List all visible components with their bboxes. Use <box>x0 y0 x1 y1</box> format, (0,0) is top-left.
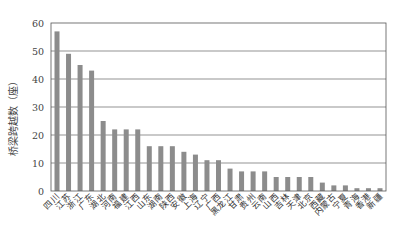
bars <box>55 31 383 191</box>
bar <box>216 160 221 191</box>
bar <box>78 65 83 191</box>
bar <box>193 155 198 191</box>
y-tick-label: 50 <box>32 46 44 57</box>
y-tick-label: 30 <box>32 102 44 113</box>
bar <box>170 146 175 191</box>
y-tick-label: 20 <box>32 130 44 141</box>
bar <box>251 171 256 191</box>
bar <box>378 188 383 191</box>
bar <box>181 152 186 191</box>
bar <box>112 129 117 191</box>
bar <box>239 171 244 191</box>
bar <box>228 169 233 191</box>
y-tick-label: 60 <box>32 18 44 29</box>
y-tick-label: 10 <box>32 158 44 169</box>
x-axis-ticks: 四川江苏浙江广东湖北河南福建江西山东湖南陕西安徽上海辽宁广西黑龙江甘肃贵州云南山… <box>42 191 385 217</box>
bar <box>297 177 302 191</box>
bar <box>124 129 129 191</box>
bar <box>66 54 71 191</box>
bar <box>354 188 359 191</box>
bar <box>285 177 290 191</box>
bar-chart: 0102030405060 四川江苏浙江广东湖北河南福建江西山东湖南陕西安徽上海… <box>0 0 407 233</box>
bar <box>343 185 348 191</box>
y-tick-label: 0 <box>38 186 44 197</box>
bar <box>147 146 152 191</box>
bar <box>262 171 267 191</box>
bar <box>308 177 313 191</box>
bar <box>158 146 163 191</box>
bar <box>101 121 106 191</box>
bar <box>55 31 60 191</box>
bar <box>135 129 140 191</box>
y-axis-ticks: 0102030405060 <box>32 18 44 197</box>
bar <box>89 71 94 191</box>
bar <box>274 177 279 191</box>
bar <box>366 188 371 191</box>
bar <box>204 160 209 191</box>
bar <box>320 183 325 191</box>
y-tick-label: 40 <box>32 74 44 85</box>
bar <box>331 185 336 191</box>
